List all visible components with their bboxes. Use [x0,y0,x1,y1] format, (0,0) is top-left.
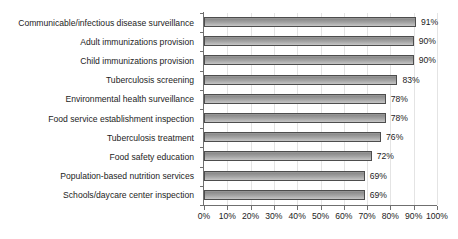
bar-value-label: 90% [419,35,436,47]
bar-value-label: 78% [391,93,408,105]
bar-value-label: 72% [377,150,394,162]
y-axis-tick [200,109,204,110]
gridline [437,13,438,205]
bar-row: 90% [204,32,437,51]
bar-value-label: 90% [419,54,436,66]
category-axis-labels: Communicable/infectious disease surveill… [0,13,200,205]
category-label: Food service establishment inspection [48,113,194,125]
y-axis-tick [200,32,204,33]
x-axis-tick-label: 70% [358,210,375,222]
bar-value-label: 69% [370,170,387,182]
category-label: Population-based nutrition services [60,170,194,182]
x-axis-tick-label: 90% [405,210,422,222]
x-axis-tick-label: 10% [219,210,236,222]
bar [204,36,414,46]
x-axis-tick-label: 30% [265,210,282,222]
y-axis-tick [200,147,204,148]
bar-row: 76% [204,128,437,147]
bar-row: 78% [204,109,437,128]
x-axis-tick-label: 0% [198,210,210,222]
bar-row: 69% [204,186,437,205]
bar [204,55,414,65]
x-axis-tick-label: 50% [312,210,329,222]
bar-chart: Communicable/infectious disease surveill… [0,0,458,239]
bar [204,17,416,27]
bar [204,113,386,123]
category-label: Schools/daycare center inspection [63,189,194,201]
category-label: Environmental health surveillance [66,93,195,105]
x-axis-tick-label: 100% [426,210,448,222]
bar-row: 72% [204,147,437,166]
bar-row: 78% [204,90,437,109]
category-label: Food safety education [109,151,194,163]
bar-row: 69% [204,167,437,186]
bar [204,94,386,104]
y-axis-tick [200,186,204,187]
bar [204,190,365,200]
bar-value-label: 91% [421,16,438,28]
bar [204,132,381,142]
bar [204,171,365,181]
category-label: Tuberculosis treatment [107,132,194,144]
y-axis-tick [200,205,204,206]
x-axis-tick-label: 60% [335,210,352,222]
x-axis-tick-labels: 0%10%20%30%40%50%60%70%80%90%100% [204,210,437,224]
y-axis-tick [200,90,204,91]
plot-area: 91%90%90%83%78%78%76%72%69%69% [204,13,437,205]
y-axis-tick [200,167,204,168]
category-label: Tuberculosis screening [106,74,194,86]
y-axis-tick [200,71,204,72]
y-axis-tick [200,51,204,52]
category-label: Communicable/infectious disease surveill… [18,17,194,29]
category-label: Adult immunizations provision [80,36,194,48]
x-axis-tick-label: 80% [382,210,399,222]
category-label: Child immunizations provision [80,55,194,67]
bar-row: 83% [204,71,437,90]
x-axis-tick-label: 20% [242,210,259,222]
bar [204,75,397,85]
y-axis-tick [200,13,204,14]
bar-value-label: 76% [386,131,403,143]
bar-row: 90% [204,51,437,70]
y-axis-tick [200,128,204,129]
bar-value-label: 69% [370,189,387,201]
bar [204,151,372,161]
bar-value-label: 78% [391,112,408,124]
bar-row: 91% [204,13,437,32]
bar-value-label: 83% [402,74,419,86]
x-axis-tick-label: 40% [289,210,306,222]
